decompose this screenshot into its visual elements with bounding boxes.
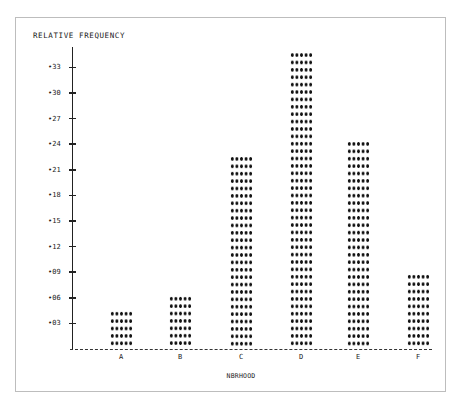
y-axis-label: RELATIVE FREQUENCY	[33, 31, 125, 40]
y-tick-label: •15	[48, 217, 61, 225]
bar-e	[347, 140, 370, 347]
y-tick	[69, 220, 76, 222]
y-tick	[69, 271, 76, 273]
y-tick-label: •12	[48, 243, 61, 251]
y-tick-label: •30	[48, 89, 61, 97]
y-tick-label: •21	[48, 166, 61, 174]
y-tick-label: •27	[48, 115, 61, 123]
y-tick	[69, 323, 76, 325]
y-tick-label: •18	[48, 191, 61, 199]
bar-d	[290, 51, 313, 347]
y-tick	[69, 195, 76, 197]
bar-b	[169, 295, 192, 347]
x-axis	[70, 349, 432, 350]
y-tick	[69, 143, 76, 145]
y-tick	[69, 246, 76, 248]
x-category-label: F	[416, 353, 420, 361]
x-axis-label: NBRHOOD	[227, 372, 256, 380]
y-tick-label: •33	[48, 63, 61, 71]
x-category-label: D	[299, 353, 303, 361]
bar-f	[407, 273, 430, 347]
y-tick	[69, 92, 76, 94]
y-tick	[69, 118, 76, 120]
y-tick	[69, 67, 76, 69]
bar-c	[230, 155, 253, 347]
y-tick	[69, 169, 76, 171]
y-tick	[69, 297, 76, 299]
y-tick-label: •09	[48, 268, 61, 276]
y-tick-label: •06	[48, 294, 61, 302]
y-tick-label: •03	[48, 319, 61, 327]
x-category-label: E	[356, 353, 360, 361]
bar-a	[110, 310, 133, 347]
y-tick-label: •24	[48, 140, 61, 148]
x-category-label: B	[178, 353, 182, 361]
x-category-label: A	[119, 353, 123, 361]
x-category-label: C	[239, 353, 243, 361]
